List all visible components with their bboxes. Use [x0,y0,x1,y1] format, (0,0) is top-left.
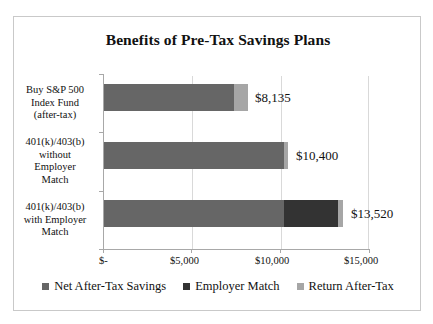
legend-swatch-icon [42,283,49,290]
x-axis-tick [369,249,370,253]
x-axis-tick [280,249,281,253]
x-axis-tick [103,249,104,253]
bar-segment-employer-match[interactable] [284,200,338,227]
bar-value-label: $10,400 [296,148,338,164]
x-axis-tick-label: $15,000 [344,255,378,266]
plot-area: $8,135 $10,400 $13,520 [104,76,369,249]
legend-swatch-icon [183,283,190,290]
x-axis-tick [191,249,192,253]
legend-label: Employer Match [195,279,279,294]
bar-segment-net-after-tax-savings[interactable] [104,142,284,169]
category-line: Buy S&P 500 [12,84,98,97]
category-line: with Employer [12,214,98,227]
category-line: Match [12,174,98,187]
bar-value-label: $13,520 [351,206,393,222]
y-axis-category-label-sp500: Buy S&P 500 Index Fund (after-tax) [12,84,98,122]
bar-segment-net-after-tax-savings[interactable] [104,84,234,111]
chart-legend: Net After-Tax Savings Employer Match Ret… [14,279,422,294]
legend-item-employer-match[interactable]: Employer Match [183,279,279,294]
x-axis-tick-label: $- [99,255,108,266]
bar-segment-net-after-tax-savings[interactable] [104,200,284,227]
category-line: (after-tax) [12,109,98,122]
legend-label: Net After-Tax Savings [54,279,166,294]
y-axis-tick [99,74,104,75]
bar-value-label: $8,135 [255,90,291,106]
x-axis-tick-label: $5,000 [170,255,199,266]
bar-segment-return-after-tax[interactable] [284,142,288,169]
category-line: Index Fund [12,97,98,110]
gridline [368,76,369,249]
category-line: Match [12,226,98,239]
legend-item-net-after-tax-savings[interactable]: Net After-Tax Savings [42,279,166,294]
chart-title: Benefits of Pre-Tax Savings Plans [14,31,422,49]
x-axis-tick-label: $10,000 [255,255,289,266]
category-line: 401(k)/403(b) [12,201,98,214]
legend-item-return-after-tax[interactable]: Return After-Tax [297,279,394,294]
bar-segment-return-after-tax[interactable] [338,200,343,227]
chart-frame: Benefits of Pre-Tax Savings Plans $8,135… [13,16,421,311]
y-axis-category-label-401k-with-match: 401(k)/403(b) with Employer Match [12,201,98,239]
legend-label: Return After-Tax [309,279,394,294]
category-line: Employer [12,161,98,174]
category-line: without [12,149,98,162]
y-axis-category-label-401k-no-match: 401(k)/403(b) without Employer Match [12,136,98,186]
category-line: 401(k)/403(b) [12,136,98,149]
bar-segment-return-after-tax[interactable] [234,84,248,111]
legend-swatch-icon [297,283,304,290]
x-axis-line [103,249,370,250]
